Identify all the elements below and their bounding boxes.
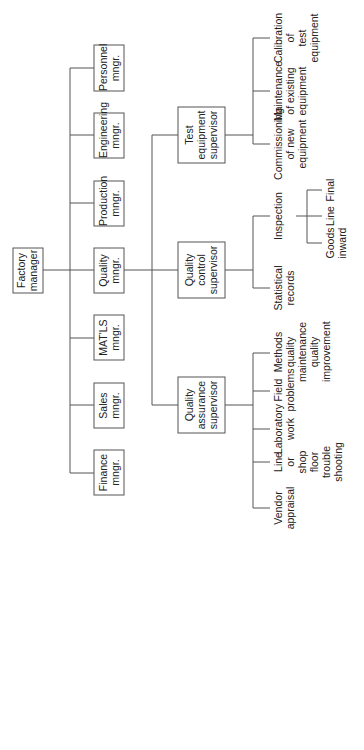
finance-manager-label: Finance mngr. xyxy=(97,450,121,495)
production-manager-label: Production mngr. xyxy=(97,181,121,226)
goods-inward-label: Goods inward xyxy=(324,221,348,265)
test-equipment-supervisor-label: Test equipment supervisor xyxy=(183,107,219,163)
statistical-records-label: Statistical records xyxy=(272,261,296,315)
commissioning-label: Commissioning of new equipment xyxy=(272,106,308,182)
inspection-label: Inspection xyxy=(272,187,284,245)
engineering-manager-label: Engineering mngr. xyxy=(97,113,121,158)
sales-manager-label: Sales mngr. xyxy=(97,383,121,428)
matls-manager-label: MAT'LS mngr. xyxy=(97,315,121,360)
quality-assurance-supervisor-label: Quality assurance supervisor xyxy=(183,377,219,433)
quality-manager-label: Quality mngr. xyxy=(97,248,121,293)
quality-control-supervisor-label: Quality control supervisor xyxy=(183,242,219,298)
factory-manager-label: Factory manager xyxy=(15,248,39,293)
vendor-appraisal-label: Vendor appraisal xyxy=(272,478,296,538)
personnel-manager-label: Personnel mngr. xyxy=(97,45,121,91)
